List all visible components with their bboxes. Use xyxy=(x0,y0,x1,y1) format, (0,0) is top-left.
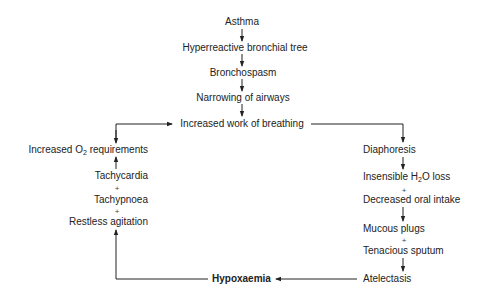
arrow-o2-to-work xyxy=(116,124,172,142)
node-insensible-h2o-loss: Insensible H2O loss xyxy=(363,171,450,183)
node-hypoxaemia: Hypoxaemia xyxy=(212,273,271,285)
plus-sign: + xyxy=(402,237,407,245)
o2-suffix: requirements xyxy=(87,144,148,155)
o2-prefix: Increased O xyxy=(28,144,82,155)
node-restless-agitation: Restless agitation xyxy=(69,216,148,228)
h2o-suffix: O loss xyxy=(422,171,450,182)
arrow-hypoxaemia-to-restless xyxy=(116,230,208,279)
node-increased-o2-requirements: Increased O2 requirements xyxy=(28,144,148,156)
node-asthma: Asthma xyxy=(225,16,259,28)
node-hyperreactive-bronchial-tree: Hyperreactive bronchial tree xyxy=(182,42,307,54)
plus-sign: + xyxy=(115,208,120,216)
node-narrowing-of-airways: Narrowing of airways xyxy=(196,92,289,104)
arrow-work-to-diaphoresis xyxy=(311,124,403,142)
node-tenacious-sputum: Tenacious sputum xyxy=(363,245,444,257)
node-bronchospasm: Bronchospasm xyxy=(210,67,277,79)
node-tachypnoea: Tachypnoea xyxy=(94,194,148,206)
node-tachycardia: Tachycardia xyxy=(95,170,148,182)
node-atelectasis: Atelectasis xyxy=(363,273,411,285)
node-diaphoresis: Diaphoresis xyxy=(363,144,416,156)
h2o-prefix: Insensible H xyxy=(363,171,418,182)
node-increased-work-of-breathing: Increased work of breathing xyxy=(180,118,303,130)
node-mucous-plugs: Mucous plugs xyxy=(363,223,425,235)
node-decreased-oral-intake: Decreased oral intake xyxy=(363,194,460,206)
plus-sign: + xyxy=(115,185,120,193)
